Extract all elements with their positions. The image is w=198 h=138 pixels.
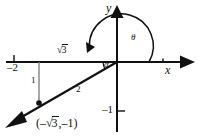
- sqrt3-radical: √3: [57, 44, 68, 55]
- y-tick-label-minus-one: –1: [102, 104, 113, 115]
- vertical-leg-label: 1: [31, 76, 36, 85]
- alpha-label: α: [104, 60, 109, 69]
- point-close-paren: ): [74, 116, 78, 130]
- terminal-ray-arrowhead: [5, 111, 27, 128]
- point-sqrt3-radical: √3: [46, 116, 59, 129]
- x-axis-arrowhead: [180, 56, 195, 69]
- theta-label: θ: [131, 33, 135, 42]
- x-tick-label-minus-two: –2: [7, 62, 18, 73]
- y-axis-label: y: [106, 2, 111, 14]
- theta-arc-arrowhead: [86, 42, 95, 53]
- horizontal-leg-label: √3: [57, 44, 68, 55]
- x-axis-label: x: [165, 64, 170, 76]
- point-y-value: –1: [62, 116, 74, 130]
- theta-arc-group: [86, 14, 153, 62]
- point-radicand: 3: [52, 116, 59, 129]
- plotted-point: [36, 100, 42, 106]
- radicand: 3: [62, 44, 68, 55]
- point-coordinate-label: (–√3,–1): [36, 116, 78, 129]
- hypotenuse-label: 2: [76, 85, 81, 94]
- trig-angle-figure: y x –2 –1 √3 1 2 θ α (–√3,–1): [0, 0, 198, 138]
- y-axis-arrowhead: [111, 5, 124, 18]
- theta-arc: [89, 14, 153, 62]
